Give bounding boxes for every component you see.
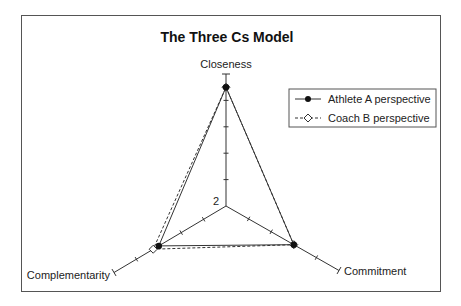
axis-min-label: 2 bbox=[213, 195, 219, 207]
radar-series bbox=[149, 83, 298, 253]
data-point-circle-icon bbox=[223, 84, 229, 90]
legend-label-athlete: Athlete A perspective bbox=[328, 93, 431, 105]
axis-tick bbox=[337, 267, 341, 274]
axis-label-closeness: Closeness bbox=[200, 58, 252, 70]
radar-chart: The Three Cs Model Closeness Commitment … bbox=[0, 0, 461, 306]
axis-label-commitment: Commitment bbox=[344, 265, 406, 277]
chart-title: The Three Cs Model bbox=[160, 29, 293, 45]
legend-label-coach: Coach B perspective bbox=[328, 112, 430, 124]
axis-tick bbox=[112, 269, 116, 276]
axis-line bbox=[114, 206, 226, 273]
axis-label-complementarity: Complementarity bbox=[27, 269, 111, 281]
axis-line bbox=[226, 206, 339, 271]
series-polygon bbox=[153, 87, 294, 249]
legend: Athlete A perspective Coach B perspectiv… bbox=[289, 89, 436, 127]
series-coach bbox=[153, 87, 294, 249]
filled-circle-marker-icon bbox=[305, 96, 311, 102]
data-point-circle-icon bbox=[291, 242, 297, 248]
data-point-circle-icon bbox=[156, 243, 162, 249]
